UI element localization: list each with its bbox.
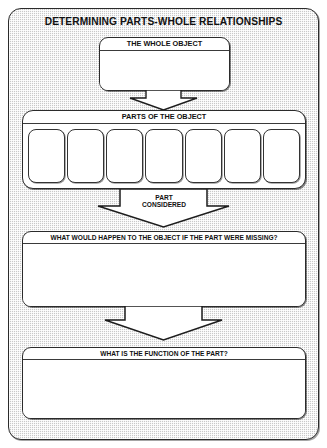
whole-object-input[interactable] [100,51,229,90]
arrow-part-considered-icon [96,189,231,229]
worksheet-page: DETERMINING PARTS-WHOLE RELATIONSHIPS TH… [0,0,327,448]
parts-row [23,124,305,188]
part-cell[interactable] [263,129,300,183]
page-title: DETERMINING PARTS-WHOLE RELATIONSHIPS [0,16,327,27]
function-question-box[interactable]: WHAT IS THE FUNCTION OF THE PART? [22,347,306,419]
parts-of-object-box: PARTS OF THE OBJECT [22,110,306,189]
function-question-header: WHAT IS THE FUNCTION OF THE PART? [23,348,305,360]
arrow-missing-to-function-icon [103,306,224,342]
function-answer-input[interactable] [23,360,305,418]
part-cell[interactable] [67,129,104,183]
missing-part-question-box[interactable]: WHAT WOULD HAPPEN TO THE OBJECT IF THE P… [22,231,306,307]
part-cell[interactable] [28,129,65,183]
part-cell[interactable] [145,129,182,183]
part-cell[interactable] [185,129,222,183]
whole-object-header: THE WHOLE OBJECT [100,38,229,51]
part-cell[interactable] [106,129,143,183]
arrow-whole-to-parts-icon [128,90,199,111]
whole-object-box[interactable]: THE WHOLE OBJECT [99,37,230,91]
missing-part-question-header: WHAT WOULD HAPPEN TO THE OBJECT IF THE P… [23,232,305,244]
parts-of-object-header: PARTS OF THE OBJECT [23,111,305,124]
missing-part-answer-input[interactable] [23,244,305,306]
part-cell[interactable] [224,129,261,183]
